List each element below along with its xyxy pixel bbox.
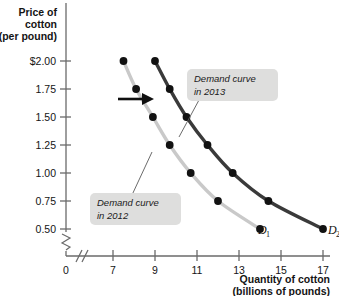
x-tick-label-9: 9 [152,264,158,276]
data-point [149,113,157,121]
x-axis-title-line-2: (billions of pounds) [233,285,330,296]
y-tick-label-1-25: 1.25 [36,139,57,151]
data-point [151,57,159,65]
data-point [229,169,237,177]
y-axis-tick-labels: $2.00 1.75 1.50 1.25 1.00 0.75 0.50 [30,55,56,235]
data-point [120,57,128,65]
y-tick-label-1-50: 1.50 [36,111,57,123]
y-tick-label-0-75: 0.75 [36,195,57,207]
y-tick-label-1-00: 1.00 [36,167,57,179]
callout-2012-line-2: in 2012 [97,210,129,221]
chart-canvas: Price of cotton (per pound) [0,0,339,296]
data-point [265,197,273,205]
data-point [214,197,222,205]
callout-2012-line-1: Demand curve [97,197,159,208]
data-point [183,113,191,121]
y-axis-title-line-1: Price of [18,6,57,18]
y-tick-label-1-75: 1.75 [36,83,57,95]
data-point [187,169,195,177]
curve-label-d2: D 2 [327,223,339,239]
y-tick-label-2-00: $2.00 [30,55,56,67]
y-tick-label-0-50: 0.50 [36,223,57,235]
data-point [204,141,212,149]
callout-2012: Demand curve in 2012 [90,152,181,225]
data-point [166,141,174,149]
curve-label-d1: D 1 [257,223,270,239]
curve-label-d1-subscript: 1 [266,230,270,239]
x-tick-label-7: 7 [110,264,116,276]
callout-2013-line-2: in 2013 [194,86,226,97]
demand-curve-figure: Price of cotton (per pound) [0,0,339,296]
shift-arrow-icon [118,93,154,105]
y-axis-break-icon [62,234,70,250]
data-point [166,85,174,93]
y-axis-title-line-2: cotton [25,18,57,30]
x-axis-title-line-1: Quantity of cotton [240,273,330,285]
data-point [319,225,327,233]
callout-2013-line-1: Demand curve [194,73,256,84]
data-point [132,85,140,93]
origin-label: 0 [63,264,69,276]
y-axis-title-line-3: (per pound) [0,30,57,42]
x-tick-label-11: 11 [192,264,203,276]
